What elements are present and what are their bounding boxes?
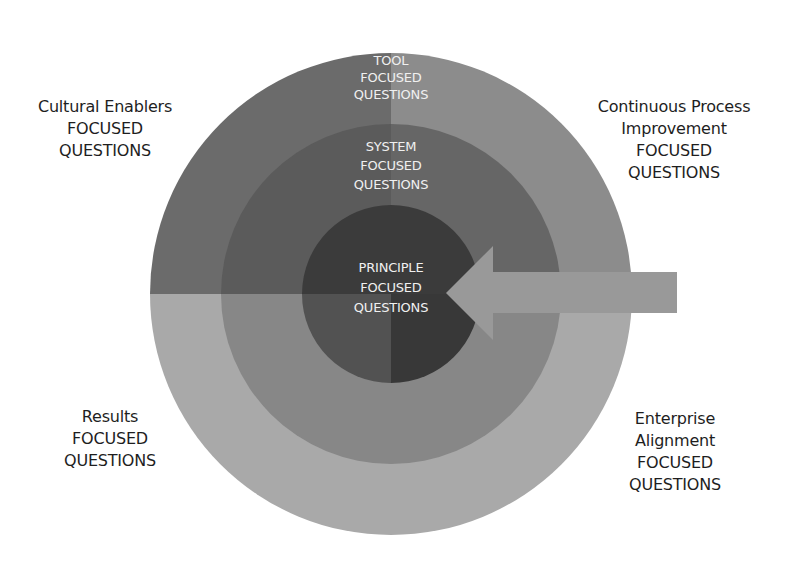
system-ring-label: SYSTEM FOCUSED QUESTIONS — [331, 137, 451, 194]
principle-label-line-3: QUESTIONS — [331, 298, 451, 318]
continuous-process-line-4: QUESTIONS — [574, 162, 774, 184]
results-line-2: FOCUSED — [40, 428, 180, 450]
tool-label-line-2: FOCUSED — [331, 69, 451, 86]
enterprise-alignment-line-3: FOCUSED — [600, 452, 750, 474]
system-label-line-2: FOCUSED — [331, 156, 451, 175]
principle-label-line-1: PRINCIPLE — [331, 258, 451, 278]
principle-label-line-2: FOCUSED — [331, 278, 451, 298]
system-label-line-3: QUESTIONS — [331, 175, 451, 194]
tool-label-line-3: QUESTIONS — [331, 86, 451, 103]
enterprise-alignment-line-2: Alignment — [600, 430, 750, 452]
enterprise-alignment-line-1: Enterprise — [600, 408, 750, 430]
tool-ring-label: TOOL FOCUSED QUESTIONS — [331, 52, 451, 103]
cultural-enablers-line-3: QUESTIONS — [10, 140, 200, 162]
tool-label-line-1: TOOL — [331, 52, 451, 69]
cultural-enablers-label: Cultural Enablers FOCUSED QUESTIONS — [10, 96, 200, 162]
continuous-process-line-1: Continuous Process — [574, 96, 774, 118]
system-label-line-1: SYSTEM — [331, 137, 451, 156]
results-line-1: Results — [40, 406, 180, 428]
enterprise-alignment-label: Enterprise Alignment FOCUSED QUESTIONS — [600, 408, 750, 496]
continuous-process-improvement-label: Continuous Process Improvement FOCUSED Q… — [574, 96, 774, 184]
enterprise-alignment-line-4: QUESTIONS — [600, 474, 750, 496]
continuous-process-line-2: Improvement — [574, 118, 774, 140]
principle-circle-label: PRINCIPLE FOCUSED QUESTIONS — [331, 258, 451, 318]
results-line-3: QUESTIONS — [40, 450, 180, 472]
results-label: Results FOCUSED QUESTIONS — [40, 406, 180, 472]
cultural-enablers-line-2: FOCUSED — [10, 118, 200, 140]
continuous-process-line-3: FOCUSED — [574, 140, 774, 162]
cultural-enablers-line-1: Cultural Enablers — [10, 96, 200, 118]
